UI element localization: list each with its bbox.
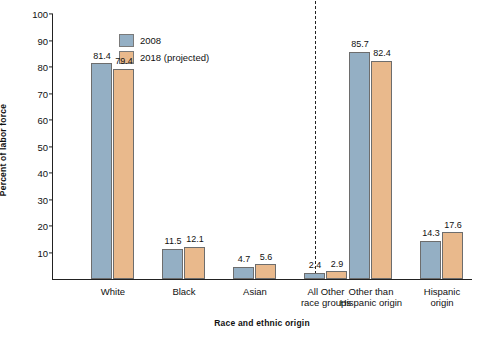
bar-value-2018: 17.6 (440, 220, 466, 230)
bar-value-2018: 79.4 (111, 56, 137, 66)
bar-2018[interactable] (184, 247, 205, 279)
bar-2008[interactable] (349, 52, 370, 279)
bar-value-2018: 82.4 (369, 48, 395, 58)
y-tick-label: 60 (37, 115, 53, 126)
bar-2018[interactable] (371, 61, 392, 279)
y-tick-label: 10 (37, 247, 53, 258)
bar-2008[interactable] (233, 267, 254, 279)
bar-chart: Percent of labor force 100 90 80 70 60 5… (0, 0, 495, 339)
bar-group-black: 11.5 12.1 Black (162, 14, 206, 279)
x-label-line2: Hispanic origin (340, 297, 402, 308)
bar-group-white: 81.4 79.4 White (91, 14, 135, 279)
x-label-line1: Asian (243, 286, 267, 297)
bar-value-2018: 12.1 (182, 234, 208, 244)
y-axis-title: Percent of labor force (0, 104, 8, 196)
bar-group-hispanic: 14.3 17.6 Hispanic origin (420, 14, 464, 279)
y-tick-label: 40 (37, 168, 53, 179)
y-tick-label: 50 (37, 141, 53, 152)
bar-2008[interactable] (420, 241, 441, 279)
bar-2008[interactable] (91, 63, 112, 279)
bar-group-all-other-race: 2.4 2.9 All Other race groups (304, 14, 348, 279)
y-tick-label: 100 (32, 9, 53, 20)
x-label-line1: Other than (349, 286, 394, 297)
y-tick-label: 90 (37, 35, 53, 46)
x-label-line1: White (101, 286, 125, 297)
bars-layer: 81.4 79.4 White 11.5 12.1 Black (53, 14, 472, 279)
bar-value-2018: 5.6 (253, 252, 279, 262)
x-label-line2: origin (430, 297, 453, 308)
bar-group-asian: 4.7 5.6 Asian (233, 14, 277, 279)
bar-2008[interactable] (304, 273, 325, 279)
bar-2018[interactable] (113, 69, 134, 279)
y-tick-label: 30 (37, 194, 53, 205)
bar-value-2018: 2.9 (324, 259, 350, 269)
bar-2018[interactable] (326, 271, 347, 279)
y-tick-label: 20 (37, 221, 53, 232)
y-tick-label: 70 (37, 88, 53, 99)
x-tick-label-hispanic: Hispanic origin (399, 286, 485, 308)
bar-value-2008: 14.3 (418, 228, 444, 238)
bar-2008[interactable] (162, 249, 183, 279)
x-label-line1: Black (172, 286, 195, 297)
bar-group-other-than-hispanic: 85.7 82.4 Other than Hispanic origin (349, 14, 393, 279)
bar-2018[interactable] (442, 232, 463, 279)
y-tick-label: 80 (37, 62, 53, 73)
bar-2018[interactable] (255, 264, 276, 279)
x-axis-title: Race and ethnic origin (52, 318, 472, 328)
plot-area: 100 90 80 70 60 50 40 30 20 10 2008 2018… (52, 14, 472, 280)
x-label-line1: Hispanic (424, 286, 460, 297)
